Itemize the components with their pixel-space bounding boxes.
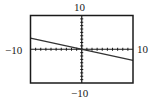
graph-window [0, 0, 155, 106]
